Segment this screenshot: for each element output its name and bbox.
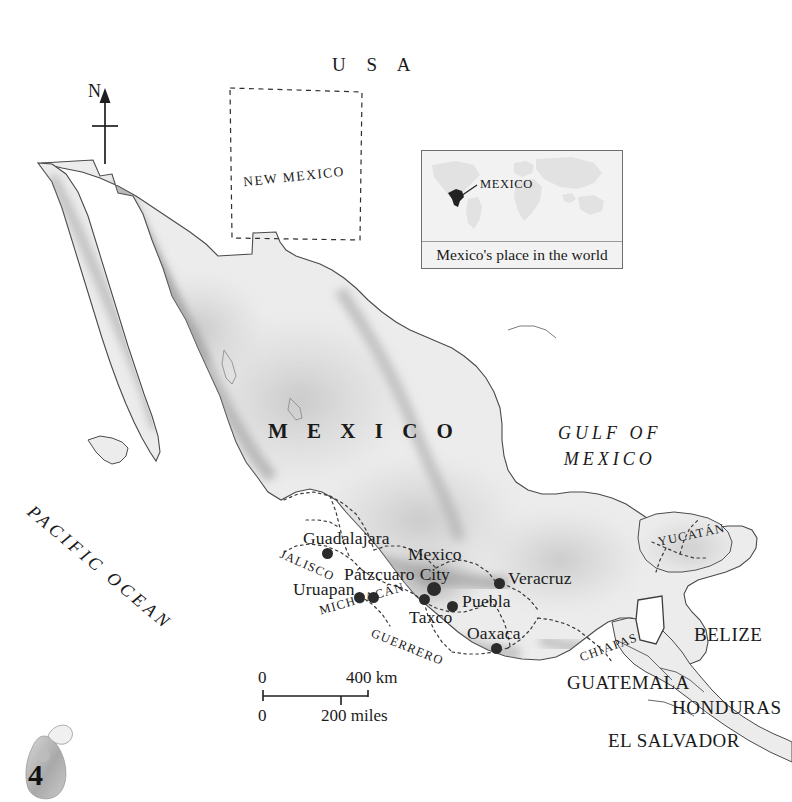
scale-bar-ruler (258, 690, 378, 706)
city-dot-uruapan (354, 592, 365, 603)
country-label-usa: U S A (332, 55, 418, 75)
country-label-honduras: HONDURAS (672, 698, 782, 718)
inset-mexico-label: MEXICO (480, 177, 533, 192)
country-label-mexico: M E X I C O (268, 420, 460, 442)
inset-world-map: MEXICO Mexico's place in the world (421, 150, 623, 269)
gulf-line-1: GULF OF (558, 420, 662, 446)
city-label-mexico-city: Mexico City (408, 545, 461, 584)
scale-km-max: 400 km (346, 668, 397, 688)
page-number: 4 (28, 758, 43, 792)
inset-caption: Mexico's place in the world (422, 241, 622, 268)
country-label-el-salvador: EL SALVADOR (608, 731, 740, 751)
coastline-detail (508, 326, 556, 338)
city-dot-guadalajara (322, 548, 333, 559)
scale-km-zero: 0 (258, 668, 267, 688)
map-page: N U S A NEW MEXICO M E X I C O GULF OF M… (0, 0, 792, 802)
water-label-gulf-of-mexico: GULF OF MEXICO (558, 420, 662, 472)
scale-bar: 0 400 km 0 200 miles (258, 668, 438, 730)
country-label-guatemala: GUATEMALA (567, 673, 690, 693)
mexico-city-line-1: Mexico (408, 545, 461, 565)
gulf-line-2: MEXICO (558, 446, 662, 472)
country-label-belize: BELIZE (694, 625, 762, 645)
city-dot-patzcuaro (368, 592, 379, 603)
city-label-taxco: Taxco (409, 608, 453, 626)
city-label-uruapan: Uruapan (293, 580, 355, 598)
city-dot-mexico-city (427, 582, 441, 596)
scale-miles-max: 200 miles (321, 706, 388, 726)
city-label-oaxaca: Oaxaca (467, 624, 521, 642)
sculpture-ornament-icon (12, 718, 82, 802)
city-dot-veracruz (494, 578, 505, 589)
city-dot-oaxaca (491, 643, 502, 654)
inset-world-continents (422, 151, 622, 235)
city-label-veracruz: Veracruz (508, 569, 572, 587)
city-dot-taxco (419, 594, 430, 605)
north-arrow-label: N (88, 82, 101, 101)
scale-miles-zero: 0 (258, 706, 267, 726)
city-label-puebla: Puebla (462, 592, 511, 610)
city-label-guadalajara: Guadalajara (303, 529, 390, 547)
